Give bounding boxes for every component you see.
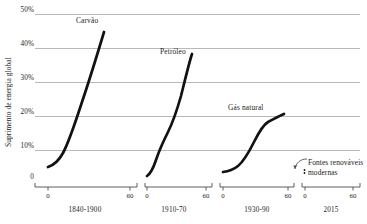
series-line-carvao (48, 32, 104, 167)
x-axis-panel-4 (302, 183, 360, 191)
annotation-arrow-icon (293, 159, 307, 169)
x-axis-panel-3 (220, 183, 294, 191)
x-axis-panel-1 (35, 183, 137, 191)
x-axis-panel-2 (145, 183, 212, 191)
series-line-gas-natural (223, 114, 284, 172)
chart-figure: Suprimento de energia global 50% 40% 30%… (0, 0, 367, 224)
chart-plot-overlay (0, 0, 367, 224)
series-line-petroleo (147, 54, 192, 176)
series-marker-renovaveis (304, 169, 306, 174)
